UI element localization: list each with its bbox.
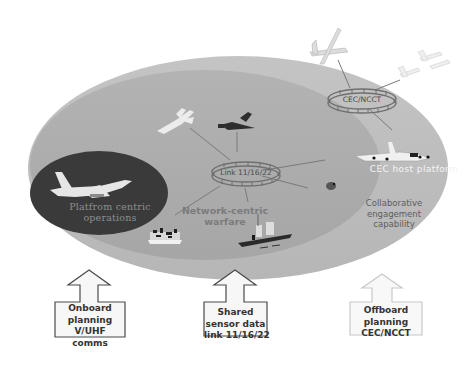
link-ring-label: Link 11/16/22 xyxy=(214,168,278,177)
cec-ring-label: CEC/NCCT xyxy=(330,95,394,104)
box-3-text: Offboard planning CEC/NCCT xyxy=(350,305,422,340)
submarine-icon xyxy=(326,182,336,190)
network-centric-label: Network-centric warfare xyxy=(170,206,280,228)
cec-host-platform-label: CEC host platform xyxy=(354,164,474,174)
uav-icon xyxy=(310,28,348,64)
collaborative-engagement-label: Collaborative engagement capability xyxy=(342,198,446,230)
box-1-text: Onboard planning V/UHF comms xyxy=(55,303,125,349)
box-2-text: Shared sensor data link 11/16/22 xyxy=(204,307,267,342)
aircraft-pair-icon xyxy=(398,50,450,77)
platform-centric-label: Platfrom centric operations xyxy=(40,202,180,224)
